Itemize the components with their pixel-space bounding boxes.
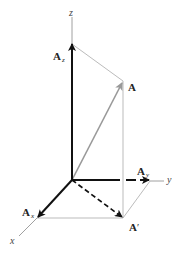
vector-ax-label: Ax	[22, 207, 34, 218]
y-axis-label: y	[167, 175, 171, 185]
az-to-a-line	[72, 44, 123, 81]
ay-to-aprime-line	[123, 181, 150, 218]
vector-aprime-label: A′	[129, 222, 139, 233]
x-axis-line	[19, 218, 37, 236]
vector-aprime-arrow	[72, 180, 122, 217]
vector-aprime-label-prime: ′	[137, 222, 139, 233]
vector-ax-arrow	[38, 180, 72, 217]
vector-ay-label: Ay	[137, 166, 149, 177]
vector-ax-label-base: A	[22, 206, 30, 218]
x-axis-label: x	[10, 236, 14, 246]
vector-az-label: Az	[53, 51, 65, 62]
vector-az-label-subscript: z	[62, 56, 65, 64]
z-axis-label: z	[69, 8, 73, 18]
vector-az-label-base: A	[53, 50, 61, 62]
vector-ax-label-subscript: x	[31, 212, 34, 220]
vector-ay-label-base: A	[137, 165, 145, 177]
vector-a-arrow	[72, 83, 122, 180]
vector-a-label: A	[128, 82, 136, 93]
vector-aprime-label-base: A	[129, 221, 137, 233]
vector-ay-label-subscript: y	[146, 171, 149, 179]
vector-diagram	[0, 0, 184, 260]
